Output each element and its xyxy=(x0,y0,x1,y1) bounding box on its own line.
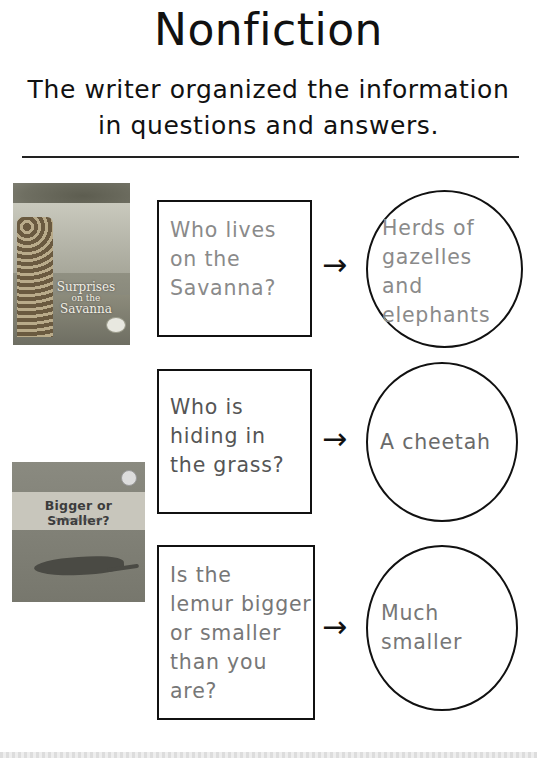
arrow-icon: → xyxy=(322,424,347,454)
answer-line: A cheetah xyxy=(380,428,491,457)
subtitle-line-1: The writer organized the information xyxy=(0,72,537,108)
answer-line: Herds of xyxy=(382,214,490,243)
page-edge xyxy=(0,752,537,758)
book-title-line-1: Surprises xyxy=(43,281,129,293)
answer-circle-3: Much smaller xyxy=(366,545,518,711)
question-line: the grass? xyxy=(170,451,310,480)
book-title: Bigger or Smaller? xyxy=(12,498,145,528)
question-line: are? xyxy=(170,677,313,706)
question-box-2: Who is hiding in the grass? xyxy=(157,369,312,514)
book-byline: by Brenda Iasevoli xyxy=(12,516,145,522)
giraffe-illustration xyxy=(17,217,53,337)
book-cover-surprises-on-the-savanna: Surprises on the Savanna xyxy=(13,183,130,345)
question-box-1: Who lives on the Savanna? xyxy=(157,200,312,337)
answer-line: gazelles xyxy=(382,243,490,272)
question-line: or smaller xyxy=(170,619,313,648)
question-line: Who is xyxy=(170,393,310,422)
answer-line: elephants xyxy=(382,301,490,330)
question-line: on the xyxy=(170,245,310,274)
question-line: Is the xyxy=(170,561,313,590)
page-title: Nonfiction xyxy=(0,4,537,55)
subtitle: The writer organized the information in … xyxy=(0,72,537,144)
answer-line: and xyxy=(382,272,490,301)
book-title-line-3: Savanna xyxy=(43,303,129,315)
badge-icon xyxy=(121,470,137,486)
answer-circle-1: Herds of gazelles and elephants xyxy=(366,190,523,348)
question-line: than you xyxy=(170,648,313,677)
book-cover-bigger-or-smaller: Bigger or Smaller? by Brenda Iasevoli xyxy=(12,462,145,602)
lizard-illustration xyxy=(34,555,125,578)
question-line: hiding in xyxy=(170,422,310,451)
subtitle-line-2: in questions and answers. xyxy=(0,108,537,144)
question-line: lemur bigger xyxy=(170,590,313,619)
arrow-icon: → xyxy=(322,612,347,642)
answer-line: Much xyxy=(381,599,462,628)
answer-line: smaller xyxy=(381,628,462,657)
divider xyxy=(22,156,519,158)
question-line: Savanna? xyxy=(170,274,310,303)
question-box-3: Is the lemur bigger or smaller than you … xyxy=(157,545,315,720)
answer-circle-2: A cheetah xyxy=(366,362,518,522)
award-badge-icon xyxy=(106,317,126,333)
question-line: Who lives xyxy=(170,216,310,245)
book-title: Surprises on the Savanna xyxy=(43,281,129,315)
arrow-icon: → xyxy=(322,250,347,280)
